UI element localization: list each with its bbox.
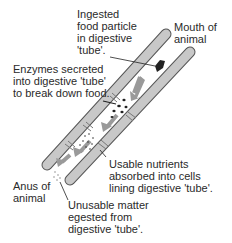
label-enzymes: Enzymes secreted into digestive 'tube' t… [13, 63, 110, 99]
food-particle-icon [155, 60, 165, 72]
label-ingested-food: Ingested food particle in digestive 'tub… [77, 8, 137, 56]
nutrient-dots [79, 133, 94, 150]
label-mouth: Mouth of animal [174, 21, 217, 45]
label-anus: Anus of animal [13, 180, 50, 204]
label-unusable-matter: Unusable matter egested from digestive '… [68, 199, 149, 235]
egested-dots [53, 171, 60, 180]
label-usable-nutrients: Usable nutrients absorbed into cells lin… [109, 158, 213, 194]
